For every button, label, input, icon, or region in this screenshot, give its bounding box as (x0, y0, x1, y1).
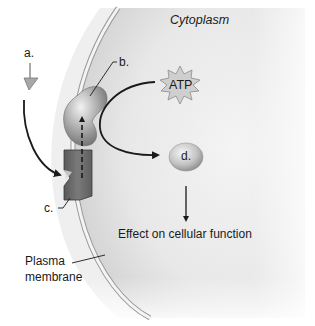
label-d: d. (181, 150, 191, 162)
label-b: b. (119, 56, 129, 68)
membrane-label-line1: Plasma (25, 255, 65, 267)
label-a: a. (24, 47, 34, 59)
cell-signaling-diagram: Cytoplasm a. b. ATP c. d. Effect on cell… (0, 0, 315, 326)
cytoplasm-label: Cytoplasm (170, 14, 229, 27)
atp-label: ATP (169, 79, 192, 92)
label-c: c. (44, 202, 53, 214)
effect-label: Effect on cellular function (118, 228, 252, 240)
membrane-label-line2: membrane (25, 271, 82, 283)
